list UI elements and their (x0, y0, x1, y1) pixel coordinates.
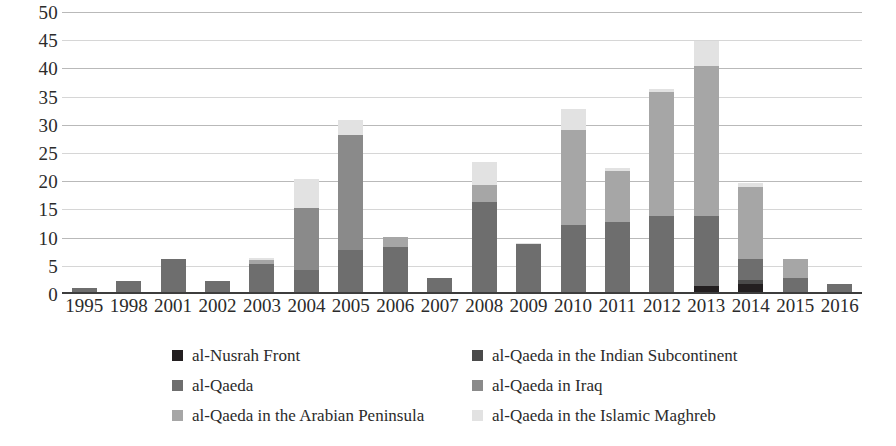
bar-stack[interactable] (116, 281, 141, 292)
bar-stack[interactable] (249, 258, 274, 292)
bar-stack[interactable] (472, 162, 497, 292)
y-tick-label: 50 (39, 3, 58, 22)
y-tick-label: 5 (48, 256, 58, 275)
bar-segment[interactable] (472, 162, 497, 185)
bar-group[interactable] (329, 12, 373, 292)
bar-group[interactable] (729, 12, 773, 292)
bar-stack[interactable] (738, 183, 763, 292)
bar-segment[interactable] (694, 216, 719, 287)
bar-stack[interactable] (649, 89, 674, 292)
bar-segment[interactable] (561, 109, 586, 130)
bar-segment[interactable] (738, 187, 763, 259)
bar-segment[interactable] (738, 259, 763, 280)
bar-segment[interactable] (205, 281, 230, 292)
bar-group[interactable] (684, 12, 728, 292)
bar-segment[interactable] (338, 250, 363, 292)
legend-item[interactable]: al-Qaeda in the Indian Subcontinent (472, 347, 772, 364)
bar-segment[interactable] (561, 225, 586, 292)
y-tick-label: 30 (39, 115, 58, 134)
x-tick-label: 2002 (195, 296, 239, 315)
bar-segment[interactable] (649, 216, 674, 292)
bar-segment[interactable] (783, 259, 808, 278)
legend-swatch-icon (472, 410, 483, 421)
x-tick-label: 2009 (506, 296, 550, 315)
bar-group[interactable] (195, 12, 239, 292)
bar-segment[interactable] (383, 247, 408, 292)
legend-item[interactable]: al-Nusrah Front (172, 347, 472, 364)
bar-group[interactable] (373, 12, 417, 292)
bar-group[interactable] (151, 12, 195, 292)
legend-swatch-icon (172, 410, 183, 421)
bar-group[interactable] (106, 12, 150, 292)
bar-group[interactable] (640, 12, 684, 292)
bar-stack[interactable] (827, 284, 852, 292)
bar-segment[interactable] (605, 171, 630, 222)
bar-group[interactable] (817, 12, 861, 292)
bar-segment[interactable] (338, 120, 363, 135)
y-tick-label: 15 (39, 200, 58, 219)
x-tick-label: 2015 (773, 296, 817, 315)
bar-segment[interactable] (738, 284, 763, 292)
y-tick-label: 35 (39, 87, 58, 106)
bar-segment[interactable] (472, 185, 497, 202)
bars-layer (62, 12, 862, 292)
legend-item[interactable]: al-Qaeda in the Islamic Maghreb (472, 407, 772, 424)
bar-group[interactable] (506, 12, 550, 292)
bar-segment[interactable] (605, 222, 630, 292)
bar-segment[interactable] (427, 278, 452, 292)
bar-segment[interactable] (827, 284, 852, 292)
bar-group[interactable] (551, 12, 595, 292)
legend-item[interactable]: al-Qaeda (172, 377, 472, 394)
x-tick-label: 2016 (817, 296, 861, 315)
x-tick-label: 2012 (640, 296, 684, 315)
x-tick-label: 2006 (373, 296, 417, 315)
bar-stack[interactable] (383, 237, 408, 292)
bar-segment[interactable] (694, 66, 719, 216)
bar-stack[interactable] (205, 281, 230, 292)
bar-segment[interactable] (338, 135, 363, 250)
x-tick-label: 2003 (240, 296, 284, 315)
legend-item[interactable]: al-Qaeda in Iraq (472, 377, 772, 394)
bar-segment[interactable] (561, 130, 586, 226)
legend-label: al-Qaeda (192, 377, 253, 394)
bar-stack[interactable] (783, 259, 808, 292)
bar-stack[interactable] (605, 168, 630, 292)
bar-group[interactable] (62, 12, 106, 292)
bar-segment[interactable] (294, 270, 319, 292)
bar-stack[interactable] (338, 120, 363, 292)
x-axis-tick-labels: 1995199820012002200320042005200620072008… (62, 296, 862, 315)
bar-segment[interactable] (249, 264, 274, 292)
bar-segment[interactable] (472, 202, 497, 292)
bar-stack[interactable] (516, 243, 541, 292)
x-tick-label: 2004 (284, 296, 328, 315)
legend-swatch-icon (172, 380, 183, 391)
y-tick-label: 45 (39, 31, 58, 50)
x-tick-label: 2013 (684, 296, 728, 315)
bar-segment[interactable] (516, 244, 541, 293)
bar-segment[interactable] (161, 259, 186, 292)
bar-group[interactable] (418, 12, 462, 292)
bar-segment[interactable] (783, 278, 808, 292)
bar-group[interactable] (595, 12, 639, 292)
bar-segment[interactable] (294, 208, 319, 270)
bar-stack[interactable] (427, 278, 452, 292)
bar-segment[interactable] (649, 92, 674, 217)
bar-stack[interactable] (561, 109, 586, 292)
legend-item[interactable]: al-Qaeda in the Arabian Peninsula (172, 407, 472, 424)
bar-group[interactable] (284, 12, 328, 292)
bar-stack[interactable] (294, 179, 319, 292)
bar-segment[interactable] (694, 41, 719, 66)
bar-segment[interactable] (383, 237, 408, 247)
bar-segment[interactable] (116, 281, 141, 292)
y-tick-label: 25 (39, 144, 58, 163)
x-tick-label: 1995 (62, 296, 106, 315)
bar-group[interactable] (462, 12, 506, 292)
bar-group[interactable] (240, 12, 284, 292)
bar-group[interactable] (773, 12, 817, 292)
x-tick-label: 2011 (595, 296, 639, 315)
bar-stack[interactable] (161, 259, 186, 292)
bar-segment[interactable] (294, 179, 319, 208)
y-tick-label: 20 (39, 172, 58, 191)
y-tick-label: 10 (39, 228, 58, 247)
bar-stack[interactable] (694, 41, 719, 292)
